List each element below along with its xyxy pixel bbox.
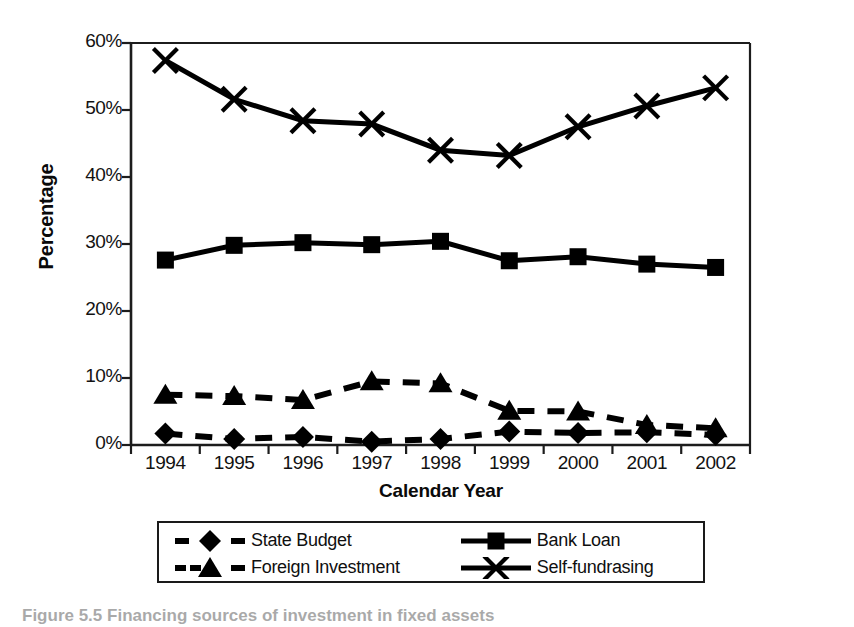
series-marker-bank-loan bbox=[638, 256, 655, 273]
legend-entry-bank-loan[interactable]: Bank Loan bbox=[453, 527, 703, 554]
series-marker-state-budget bbox=[430, 428, 452, 450]
series-marker-state-budget bbox=[154, 423, 176, 445]
x-axis-tick-label: 2002 bbox=[681, 452, 751, 474]
legend-entry-foreign-investment[interactable]: Foreign Investment bbox=[159, 554, 453, 581]
legend-marker-triangle-icon bbox=[198, 557, 222, 577]
series-marker-bank-loan bbox=[157, 252, 174, 269]
legend-marker-diamond-icon bbox=[199, 530, 221, 552]
series-marker-bank-loan bbox=[501, 252, 518, 269]
x-axis-tick-label: 1999 bbox=[474, 452, 544, 474]
legend-label-state-budget: State Budget bbox=[247, 530, 351, 551]
chart-legend: State Budget Bank Loan Foreign Investmen… bbox=[157, 521, 705, 583]
series-marker-bank-loan bbox=[226, 237, 243, 254]
series-marker-state-budget bbox=[498, 421, 520, 443]
series-marker-state-budget bbox=[223, 428, 245, 450]
series-marker-bank-loan bbox=[570, 248, 587, 265]
series-marker-bank-loan bbox=[294, 234, 311, 251]
figure-caption: Figure 5.5 Financing sources of investme… bbox=[22, 606, 822, 626]
x-axis-tick-label: 1996 bbox=[268, 452, 338, 474]
figure-root: Percentage 0%10%20%30%40%50%60% 19941995… bbox=[0, 0, 854, 627]
x-axis-tick-label: 2001 bbox=[612, 452, 682, 474]
x-axis-tick-label: 1998 bbox=[406, 452, 476, 474]
x-axis-tick-label: 1995 bbox=[199, 452, 269, 474]
series-marker-state-budget bbox=[567, 422, 589, 444]
series-marker-bank-loan bbox=[363, 236, 380, 253]
y-axis-tick-label: 60% bbox=[50, 30, 122, 52]
legend-swatch-triangle-icon bbox=[173, 557, 247, 579]
series-marker-bank-loan bbox=[432, 233, 449, 250]
series-self-fundrasing bbox=[153, 48, 727, 167]
series-marker-state-budget bbox=[361, 431, 383, 453]
x-axis-title: Calendar Year bbox=[131, 480, 751, 502]
x-axis-tick-label: 1997 bbox=[337, 452, 407, 474]
x-axis-tick-label: 2000 bbox=[543, 452, 613, 474]
legend-entry-self-fundrasing[interactable]: Self-fundrasing bbox=[453, 554, 703, 581]
legend-marker-square-icon bbox=[487, 532, 504, 549]
x-axis-tick-labels: 199419951996199719981999200020012002 bbox=[131, 452, 751, 480]
series-line-self-fundrasing bbox=[165, 60, 715, 155]
legend-label-self-fundrasing: Self-fundrasing bbox=[533, 557, 654, 578]
series-bank-loan bbox=[157, 233, 724, 276]
legend-row: State Budget Bank Loan bbox=[159, 527, 703, 554]
series-marker-bank-loan bbox=[707, 259, 724, 276]
y-axis-tick-label: 10% bbox=[50, 365, 122, 387]
series-foreign-investment bbox=[153, 370, 727, 437]
legend-entry-state-budget[interactable]: State Budget bbox=[159, 527, 453, 554]
y-axis-tick-labels: 0%10%20%30%40%50%60% bbox=[42, 0, 122, 470]
legend-swatch-diamond-icon bbox=[173, 530, 247, 552]
legend-label-bank-loan: Bank Loan bbox=[533, 530, 620, 551]
legend-row: Foreign Investment Self-fundrasing bbox=[159, 554, 703, 581]
y-axis-tick-label: 30% bbox=[50, 231, 122, 253]
series-marker-foreign-investment bbox=[429, 372, 453, 392]
legend-swatch-x-icon bbox=[459, 557, 533, 579]
y-axis-tick-label: 0% bbox=[50, 432, 122, 454]
y-axis-tick-label: 50% bbox=[50, 97, 122, 119]
legend-swatch-square-icon bbox=[459, 530, 533, 552]
y-axis-tick-label: 40% bbox=[50, 164, 122, 186]
x-axis-tick-label: 1994 bbox=[130, 452, 200, 474]
y-axis-tick-label: 20% bbox=[50, 298, 122, 320]
legend-label-foreign-investment: Foreign Investment bbox=[247, 557, 400, 578]
